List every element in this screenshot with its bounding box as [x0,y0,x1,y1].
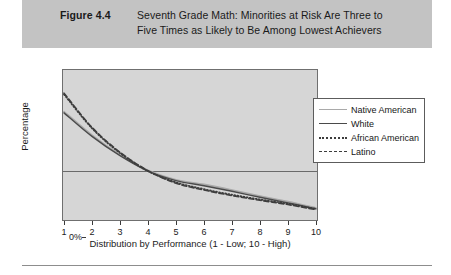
legend-item-white[interactable]: White [319,117,419,131]
legend-label: Native American [351,105,417,115]
x-tick-mark [120,221,121,225]
legend-label: Latino [351,147,376,157]
legend-swatch-dotted-icon [319,133,347,143]
x-tick-label: 10 [306,227,326,237]
x-tick-label: 1 [54,227,74,237]
figure-container: Figure 4.4 Seventh Grade Math: Minoritie… [0,0,451,275]
y-axis-title: Percentage [19,102,30,151]
x-tick-mark [176,221,177,225]
x-tick-mark [148,221,149,225]
legend-swatch-solid-light-icon [319,105,347,115]
figure-caption-band: Figure 4.4 Seventh Grade Math: Minoritie… [22,0,432,48]
chart: Percentage 0%5%10%15%20%25%30%35% 123456… [0,52,451,252]
series-line-white [64,113,316,209]
legend-item-african-american[interactable]: African American [319,131,419,145]
chart-legend: Native American White African American L… [313,98,425,163]
x-tick-label: 6 [194,227,214,237]
x-tick-label: 2 [82,227,102,237]
x-tick-label: 7 [222,227,242,237]
series-lines [63,70,317,220]
legend-label: African American [351,133,419,143]
x-axis-title: Distribution by Performance (1 - Low; 10… [62,238,318,249]
legend-label: White [351,119,374,129]
legend-swatch-solid-dark-icon [319,119,347,129]
figure-title-line-1: Seventh Grade Math: Minorities at Risk A… [137,9,383,21]
x-tick-mark [92,221,93,225]
x-tick-mark [204,221,205,225]
figure-title: Seventh Grade Math: Minorities at Risk A… [137,8,427,38]
series-line-latino [64,93,316,210]
x-tick-mark [64,221,65,225]
x-tick-mark [260,221,261,225]
x-tick-label: 9 [278,227,298,237]
x-tick-label: 3 [110,227,130,237]
page-divider-rule [22,265,432,266]
legend-item-native-american[interactable]: Native American [319,103,419,117]
legend-item-latino[interactable]: Latino [319,145,419,159]
figure-number: Figure 4.4 [60,9,111,21]
series-line-native-american [64,112,316,208]
plot-inner [63,70,317,220]
x-tick-mark [288,221,289,225]
figure-title-line-2: Five Times as Likely to Be Among Lowest … [137,23,427,38]
x-tick-label: 5 [166,227,186,237]
series-line-african-american [64,94,316,208]
plot-area [62,69,318,221]
x-tick-label: 4 [138,227,158,237]
x-tick-mark [316,221,317,225]
x-tick-mark [232,221,233,225]
legend-swatch-dashed-icon [319,147,347,157]
x-tick-label: 8 [250,227,270,237]
